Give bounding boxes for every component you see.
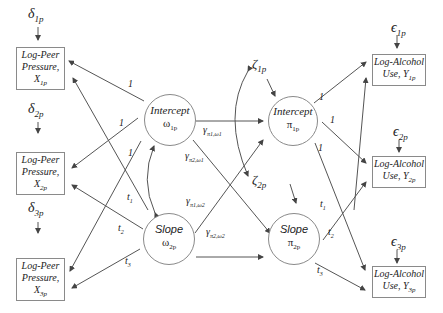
gamma-pi1-omega2-label: γπ1,ω2 [186, 195, 205, 208]
delta-2p-label: δ2p [28, 101, 44, 119]
loading-label: 1 [319, 91, 324, 102]
slope-loading-label: t1 [127, 191, 133, 204]
indicator-line2: Use, Y2p [373, 170, 425, 186]
latent-symbol: ω2p [144, 236, 194, 254]
delta-1p-label: δ1p [28, 6, 44, 24]
latent-intercept-pi: Intercept π1p [268, 96, 318, 146]
zeta-1p-label: ζ1p [252, 56, 266, 74]
indicator-line1: Log-Peer [17, 49, 64, 61]
loading-label: 1 [128, 147, 133, 158]
latent-title: Slope [144, 223, 194, 236]
latent-title: Slope [269, 223, 319, 236]
latent-slope-pi: Slope π2p [268, 213, 320, 265]
indicator-box-x3p: Log-Peer Pressure, X3p [16, 258, 65, 301]
indicator-line2: Use, Y1p [373, 68, 425, 84]
slope-loading-label: t2 [118, 222, 124, 235]
epsilon-1p-label: ϵ1p [391, 20, 406, 38]
latent-symbol: π2p [269, 236, 319, 254]
indicator-var: X2p [17, 178, 64, 194]
latent-title: Intercept [145, 104, 195, 117]
indicator-line1: Log-Alcohol [373, 158, 425, 170]
gamma-pi2-omega1-label: γπ2,ω1 [185, 150, 204, 163]
slope-loading-label: t3 [125, 255, 131, 268]
indicator-line2: Pressure, [17, 61, 64, 73]
indicator-line2: Pressure, [17, 166, 64, 178]
epsilon-2p-label: ϵ2p [393, 124, 408, 142]
loading-label: 1 [119, 117, 124, 128]
latent-title: Intercept [269, 105, 317, 118]
gamma-pi2-omega2-label: γπ2,ω2 [206, 226, 225, 239]
indicator-box-x1p: Log-Peer Pressure, X1p [16, 47, 65, 90]
indicator-line2: Pressure, [17, 272, 64, 284]
latent-symbol: ω1p [145, 117, 195, 135]
epsilon-3p-label: ϵ3p [391, 234, 406, 252]
indicator-line1: Log-Peer [17, 154, 64, 166]
indicator-box-y3p: Log-Alcohol Use, Y3p [372, 266, 426, 298]
latent-intercept-omega: Intercept ω1p [144, 94, 196, 146]
indicator-box-y1p: Log-Alcohol Use, Y1p [372, 54, 426, 86]
indicator-line2: Use, Y3p [373, 280, 425, 296]
indicator-line1: Log-Peer [17, 260, 64, 272]
indicator-var: X1p [17, 73, 64, 89]
loading-label: 1 [330, 114, 335, 125]
loading-label: 1 [128, 78, 133, 89]
indicator-var: X3p [17, 284, 64, 300]
slope-loading-label: t2 [328, 226, 334, 239]
indicator-box-x2p: Log-Peer Pressure, X2p [16, 152, 65, 195]
slope-loading-label: t3 [317, 264, 323, 277]
gamma-pi1-omega1-label: γπ1,ω1 [203, 124, 222, 137]
indicator-line1: Log-Alcohol [373, 56, 425, 68]
loading-label: 1 [318, 142, 323, 153]
indicator-line1: Log-Alcohol [373, 268, 425, 280]
indicator-box-y2p: Log-Alcohol Use, Y2p [372, 156, 426, 188]
delta-3p-label: δ3p [28, 200, 44, 218]
slope-loading-label: t1 [320, 198, 326, 211]
latent-slope-omega: Slope ω2p [143, 213, 195, 265]
latent-symbol: π1p [269, 118, 317, 136]
zeta-2p-label: ζ2p [252, 172, 266, 190]
